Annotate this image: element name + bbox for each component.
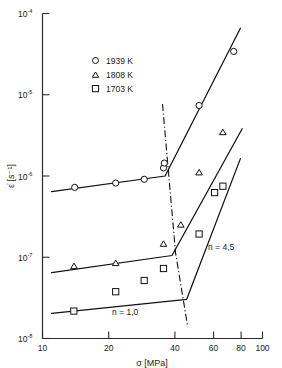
x-axis-tick-labels: 10 20 40 60 80 100	[38, 343, 270, 353]
data-point-square	[113, 289, 119, 295]
x-tick-label-40: 40	[170, 343, 180, 353]
data-point-circle	[161, 160, 167, 166]
x-tick-label-10: 10	[38, 343, 48, 353]
chart-legend: 1939 K 1808 K 1703 K	[92, 56, 133, 94]
data-point-circle	[72, 184, 78, 190]
x-axis-title: σ [MPa]	[136, 358, 168, 368]
data-point-square	[220, 183, 226, 189]
creep-rate-vs-stress-chart: 10-4 10-5 10-6 10-7 10-8 10 20 40 60 80 …	[0, 0, 282, 368]
data-point-square	[141, 277, 147, 283]
data-point-square	[71, 308, 77, 314]
y-tick-label-1e-5: 10-5	[18, 89, 32, 100]
data-point-circle	[141, 176, 147, 182]
data-point-circle	[113, 180, 119, 186]
legend-marker-square-icon	[92, 86, 98, 92]
data-point-circle	[196, 102, 202, 108]
x-tick-label-20: 20	[104, 343, 114, 353]
legend-label-1703k: 1703 K	[106, 84, 133, 94]
y-tick-label-1e-6: 10-6	[18, 171, 32, 182]
x-tick-label-80: 80	[236, 343, 246, 353]
data-point-triangle	[160, 241, 167, 247]
series-1939k-fit	[52, 28, 241, 191]
series-1939k	[52, 28, 241, 191]
transition-dash-dot-line	[163, 104, 188, 327]
x-tick-label-100: 100	[255, 343, 269, 353]
annotation-n-4-5: n = 4,5	[208, 242, 235, 252]
legend-label-1808k: 1808 K	[106, 70, 133, 80]
data-point-triangle	[220, 129, 227, 135]
y-tick-label-1e-7: 10-7	[18, 252, 32, 263]
data-point-square	[160, 265, 166, 271]
data-point-square	[212, 190, 218, 196]
y-tick-label-1e-8: 10-8	[18, 333, 32, 344]
y-axis-ticks	[43, 14, 50, 339]
axes	[43, 14, 263, 339]
annotation-n-1-0: n = 1,0	[112, 307, 139, 317]
y-axis-tick-labels: 10-4 10-5 10-6 10-7 10-8	[18, 8, 32, 344]
x-tick-label-60: 60	[209, 343, 219, 353]
data-point-circle	[231, 48, 237, 54]
x-axis-ticks	[43, 332, 263, 339]
legend-marker-triangle-icon	[92, 72, 98, 77]
data-point-square	[196, 231, 202, 237]
chart-svg: 10-4 10-5 10-6 10-7 10-8 10 20 40 60 80 …	[0, 0, 282, 368]
legend-marker-circle-icon	[93, 58, 99, 64]
data-point-triangle	[196, 169, 203, 175]
y-axis-title: ε̇ [s⁻¹]	[6, 164, 16, 188]
y-tick-label-1e-4: 10-4	[18, 8, 32, 19]
legend-label-1939k: 1939 K	[106, 56, 133, 66]
data-point-triangle	[71, 263, 78, 269]
data-point-triangle	[178, 222, 185, 228]
